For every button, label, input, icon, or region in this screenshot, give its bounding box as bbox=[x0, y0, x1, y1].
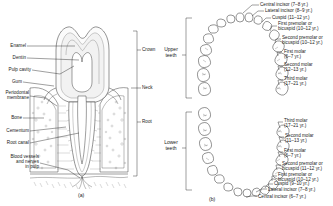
lower-tooth-label-cuspid: Cuspid (9–10 yr.) bbox=[274, 181, 309, 186]
label-bone: Bone bbox=[2, 115, 22, 120]
panel-a-letter: (a) bbox=[78, 192, 84, 198]
label-root: Root bbox=[142, 119, 152, 124]
upper-tooth-label-central-incisor: Central incisor (7–8 yr.) bbox=[260, 2, 308, 7]
label-crown: Crown bbox=[142, 47, 155, 52]
dental-anatomy-figure: Enamel Dentin Pulp cavity Gum Periodonta… bbox=[0, 0, 333, 206]
label-neck: Neck bbox=[142, 85, 153, 90]
upper-tooth-label-first-molar: First molar (6–7 yr.) bbox=[284, 49, 306, 59]
lower-tooth-label-central-incisor: Central incisor (6–7 yr.) bbox=[258, 194, 306, 199]
lower-tooth-label-lateral-incisor: Lateral incisor (7–8 yr.) bbox=[268, 187, 315, 192]
label-root-canal: Root canal bbox=[2, 140, 29, 145]
label-periodontal-membrane: Periodontal membrane bbox=[2, 90, 29, 100]
label-gum: Gum bbox=[2, 79, 22, 84]
upper-tooth-label-second-molar: Second molar (12–13 yr.) bbox=[284, 62, 313, 72]
upper-tooth-label-second-premolar: Second premolar or bicuspid (10–12 yr.) bbox=[282, 35, 323, 45]
lower-tooth-label-second-premolar: Second premolar or bicuspid (11–12 yr.) bbox=[282, 161, 323, 171]
lower-tooth-label-third-molar: Third molar (17–21 yr.) bbox=[284, 118, 307, 128]
upper-tooth-label-cuspid: Cuspid (11–12 yr.) bbox=[272, 15, 310, 20]
lower-tooth-label-second-molar: Second molar (11–13 yr.) bbox=[285, 133, 314, 143]
label-lower-teeth: Lower teeth bbox=[160, 140, 182, 151]
upper-tooth-label-third-molar: Third molar (17–21 yr.) bbox=[284, 76, 307, 86]
lower-tooth-label-first-molar: First molar (6–7 yr.) bbox=[284, 148, 306, 158]
label-upper-teeth: Upper teeth bbox=[160, 47, 182, 58]
upper-tooth-label-lateral-incisor: Lateral incisor (8–9 yr.) bbox=[265, 8, 312, 13]
label-blood-vessels-nerves: Blood vessels and nerves in pulp bbox=[2, 154, 39, 170]
label-pulp-cavity: Pulp cavity bbox=[2, 67, 31, 72]
panel-b-letter: (b) bbox=[209, 196, 215, 202]
upper-tooth-label-first-premolar: First premolar or bicuspid (10–12 yr.) bbox=[278, 21, 319, 31]
label-dentin: Dentin bbox=[2, 55, 26, 60]
label-cementum: Cementum bbox=[2, 128, 29, 133]
upper-arch-teeth bbox=[197, 13, 288, 96]
label-enamel: Enamel bbox=[2, 43, 26, 48]
